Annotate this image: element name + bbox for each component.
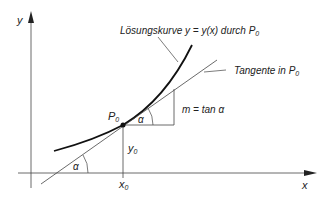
tangent-line	[41, 60, 217, 184]
alpha-arc-top	[148, 108, 153, 125]
curve-label-sub: 0	[255, 30, 259, 37]
p0-label: P0	[108, 110, 119, 123]
x-axis-label: x	[301, 179, 308, 191]
point-p0	[121, 123, 126, 128]
alpha-top-label: α	[138, 114, 144, 125]
y0-label-sub: 0	[134, 148, 138, 155]
tangent-label-main: Tangente in P	[234, 65, 296, 76]
tangent-label: Tangente in P0	[234, 65, 299, 77]
y-axis-arrow-icon	[28, 11, 34, 23]
curve-label: Lösungskurve y = y(x) durch P0	[120, 25, 259, 37]
y0-label: y0	[127, 142, 138, 155]
x-axis-arrow-icon	[304, 170, 317, 176]
alpha-bottom-label: α	[73, 161, 79, 172]
diagram-svg: y x Lösungskurve y = y(x) durch P0 Tange…	[0, 0, 331, 198]
tangent-label-sub: 0	[295, 70, 299, 77]
tangent-leader-line	[204, 70, 226, 72]
x0-label: x0	[118, 178, 129, 191]
y-axis-label: y	[16, 14, 24, 26]
alpha-arc-bottom	[83, 155, 88, 173]
curve-leader-line	[158, 37, 178, 62]
curve-label-main: Lösungskurve y = y(x) durch P	[120, 25, 256, 36]
x0-label-sub: 0	[125, 184, 129, 191]
diagram-canvas: y x Lösungskurve y = y(x) durch P0 Tange…	[0, 0, 331, 198]
p0-label-sub: 0	[115, 116, 119, 123]
slope-label: m = tan α	[182, 104, 224, 115]
